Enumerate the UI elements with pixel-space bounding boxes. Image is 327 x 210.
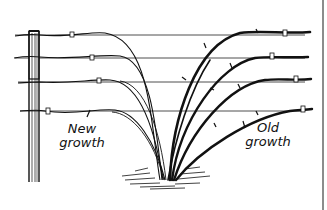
old-growth-canes — [168, 32, 312, 180]
trellis-illustration — [0, 0, 327, 210]
old-growth-label: Old growth — [236, 121, 300, 149]
new-growth-line1: New — [52, 122, 112, 136]
wire-ties-left — [46, 32, 101, 114]
trellis-wires — [15, 35, 305, 111]
trellis-post — [29, 31, 39, 182]
old-growth-line1: Old — [236, 121, 300, 135]
new-growth-label: New growth — [52, 122, 112, 150]
wire-ties-right — [270, 30, 305, 112]
old-growth-line2: growth — [236, 135, 300, 149]
new-growth-line2: growth — [52, 136, 112, 150]
